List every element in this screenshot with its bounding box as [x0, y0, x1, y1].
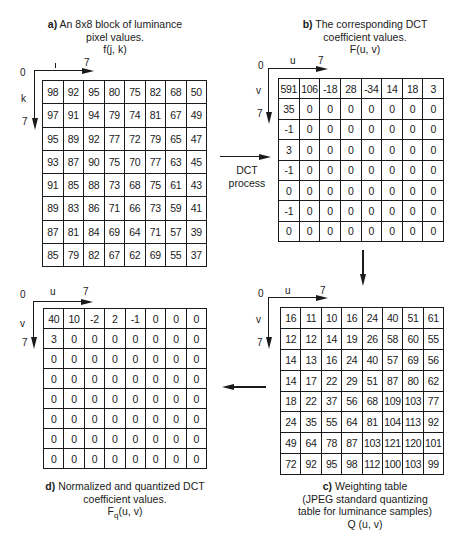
- grid-row: -10000000: [279, 119, 444, 139]
- grid-cell: 14: [281, 349, 301, 370]
- grid-cell: 3: [44, 329, 64, 349]
- grid-cell: 85: [63, 174, 84, 197]
- grid-cell: 0: [44, 349, 64, 369]
- grid-cell: 0: [105, 369, 125, 389]
- grid-cell: 0: [166, 349, 186, 369]
- grid-cell: 0: [402, 160, 423, 180]
- grid-cell: 0: [423, 221, 444, 241]
- grid-cell: 84: [84, 220, 105, 243]
- grid-cell: 22: [301, 391, 321, 412]
- dct-process-arrow-head: [259, 154, 271, 160]
- grid-cell: 0: [320, 221, 341, 241]
- grid-row: 1212141926586055: [281, 328, 444, 349]
- panel-a-axis-origin: 0: [20, 67, 26, 78]
- panel-a-pixel-grid: 9892958075826850979194797481674995899277…: [42, 80, 207, 267]
- grid-cell: 0: [402, 180, 423, 200]
- grid-cell: 83: [63, 197, 84, 220]
- panel-c-axis-y-end: 7: [257, 337, 263, 348]
- grid-cell: 87: [382, 370, 402, 391]
- grid-cell: 91: [43, 174, 64, 197]
- grid-cell: 103: [362, 433, 382, 454]
- grid-row: 30000000: [44, 329, 207, 349]
- grid-cell: 79: [104, 104, 125, 127]
- grid-cell: 0: [340, 201, 361, 221]
- grid-row: 1417222951878062: [281, 370, 444, 391]
- grid-row: 1413162440576956: [281, 349, 444, 370]
- grid-cell: 59: [166, 197, 187, 220]
- panel-d-caption-line3: Fq(u, v): [30, 505, 220, 523]
- grid-cell: -2: [84, 309, 104, 329]
- grid-row: 591106-1828-3414183: [279, 79, 444, 99]
- grid-cell: 51: [362, 370, 382, 391]
- grid-cell: 0: [64, 329, 84, 349]
- grid-row: 8983867166735941: [43, 197, 207, 220]
- grid-cell: 18: [402, 79, 423, 99]
- grid-cell: 0: [84, 369, 104, 389]
- grid-cell: 121: [382, 433, 402, 454]
- panel-c-caption-line1: c) Weighting table: [270, 480, 460, 493]
- grid-cell: 0: [145, 389, 165, 409]
- grid-cell: 0: [44, 429, 64, 449]
- grid-cell: 64: [342, 412, 362, 433]
- grid-cell: 24: [281, 412, 301, 433]
- grid-cell: 0: [382, 221, 403, 241]
- grid-cell: 0: [423, 160, 444, 180]
- panel-c-axis-x-arrow: [316, 295, 328, 301]
- grid-cell: 0: [64, 369, 84, 389]
- grid-cell: 55: [321, 412, 341, 433]
- grid-cell: 0: [340, 119, 361, 139]
- panel-d-caption-line2: coefficient values.: [30, 493, 220, 506]
- grid-cell: 73: [104, 174, 125, 197]
- grid-cell: 0: [145, 349, 165, 369]
- grid-cell: 0: [44, 389, 64, 409]
- grid-row: 243555648110411392: [281, 412, 444, 433]
- grid-cell: 66: [125, 197, 146, 220]
- grid-cell: 0: [402, 119, 423, 139]
- c-to-d-arrow-line: [232, 386, 266, 388]
- grid-cell: 3: [279, 140, 300, 160]
- grid-cell: 0: [340, 221, 361, 241]
- grid-cell: 37: [321, 391, 341, 412]
- grid-cell: -1: [279, 160, 300, 180]
- grid-cell: 49: [281, 433, 301, 454]
- grid-cell: 0: [186, 389, 206, 409]
- grid-cell: 0: [279, 221, 300, 241]
- grid-cell: 0: [320, 119, 341, 139]
- grid-cell: 95: [43, 127, 64, 150]
- panel-c-quant-grid: 1611101624405161121214192658605514131624…: [280, 307, 444, 475]
- grid-cell: 57: [166, 220, 187, 243]
- grid-cell: 98: [342, 454, 362, 475]
- panel-c-axis-y-label: v: [256, 314, 261, 325]
- grid-cell: 0: [382, 140, 403, 160]
- panel-d-axis-y-arrow: [31, 337, 37, 349]
- grid-row: 8579826762695537: [43, 243, 207, 266]
- grid-cell: 10: [64, 309, 84, 329]
- panel-d-axis-origin: 0: [20, 289, 26, 300]
- grid-cell: 87: [43, 220, 64, 243]
- panel-c-axis-origin: 0: [258, 288, 264, 299]
- grid-row: 8781846964715739: [43, 220, 207, 243]
- grid-cell: 28: [340, 79, 361, 99]
- grid-cell: 62: [125, 243, 146, 266]
- grid-cell: 0: [186, 329, 206, 349]
- grid-cell: 79: [145, 127, 166, 150]
- grid-cell: 0: [299, 99, 320, 119]
- grid-cell: 61: [166, 174, 187, 197]
- grid-cell: 12: [301, 328, 321, 349]
- grid-cell: 0: [145, 309, 165, 329]
- grid-cell: 89: [63, 127, 84, 150]
- grid-cell: 14: [382, 79, 403, 99]
- grid-cell: 0: [166, 309, 186, 329]
- panel-b-axis-x-label: u: [290, 55, 296, 66]
- grid-row: 9892958075826850: [43, 81, 207, 104]
- grid-cell: 0: [64, 409, 84, 429]
- grid-cell: 0: [320, 201, 341, 221]
- grid-cell: 0: [125, 369, 145, 389]
- grid-cell: 49: [186, 104, 207, 127]
- panel-d-caption: d) Normalized and quantized DCT coeffici…: [30, 480, 220, 523]
- grid-cell: 79: [63, 243, 84, 266]
- grid-cell: 0: [105, 429, 125, 449]
- grid-cell: 0: [186, 409, 206, 429]
- grid-row: 1611101624405161: [281, 308, 444, 329]
- grid-cell: 112: [362, 454, 382, 475]
